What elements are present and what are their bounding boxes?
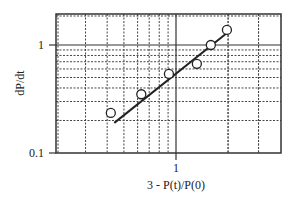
y-axis-label: dP/dt bbox=[13, 70, 27, 96]
x-tick-label-1: 1 bbox=[173, 161, 179, 175]
grid-lines bbox=[56, 14, 281, 153]
data-point bbox=[192, 59, 201, 68]
data-point bbox=[222, 25, 231, 34]
plot-frame bbox=[56, 14, 281, 153]
y-tick-label-0.1: 0.1 bbox=[29, 146, 44, 160]
data-point bbox=[106, 108, 115, 117]
data-point bbox=[206, 41, 215, 50]
data-point bbox=[137, 90, 146, 99]
x-axis-label: 3 - P(t)/P(0) bbox=[147, 178, 205, 192]
y-tick-label-1: 1 bbox=[38, 38, 44, 52]
log-log-chart: 1 0.1 1 3 - P(t)/P(0) dP/dt bbox=[0, 0, 295, 198]
data-point bbox=[164, 69, 173, 78]
data-points bbox=[106, 25, 231, 117]
